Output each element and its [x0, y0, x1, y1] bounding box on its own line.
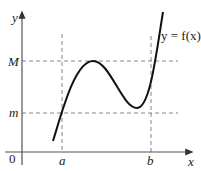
- origin-label: 0: [9, 151, 16, 166]
- curve-label: y = f(x): [161, 28, 201, 43]
- y-axis-label: y: [10, 10, 18, 25]
- y-mark-M: M: [7, 54, 20, 69]
- y-mark-m: m: [9, 105, 18, 120]
- function-graph: y x 0 a b M m y = f(x): [0, 0, 201, 171]
- guide-lines: [22, 34, 178, 152]
- x-mark-b: b: [147, 153, 154, 168]
- curve-f: [53, 12, 163, 141]
- x-mark-a: a: [59, 153, 66, 168]
- x-axis-label: x: [187, 154, 194, 169]
